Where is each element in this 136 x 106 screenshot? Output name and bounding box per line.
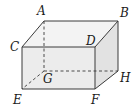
vertex-label-f: F bbox=[90, 93, 100, 106]
rectangular-prism-diagram: A B C D G H E F bbox=[0, 0, 136, 106]
front-face bbox=[22, 47, 95, 89]
vertex-label-c: C bbox=[10, 40, 19, 54]
vertex-label-g: G bbox=[43, 72, 53, 86]
vertex-label-h: H bbox=[119, 71, 131, 85]
vertex-label-b: B bbox=[119, 6, 129, 20]
vertex-label-d: D bbox=[85, 34, 96, 48]
vertex-label-e: E bbox=[12, 93, 22, 106]
vertex-label-a: A bbox=[36, 4, 46, 18]
